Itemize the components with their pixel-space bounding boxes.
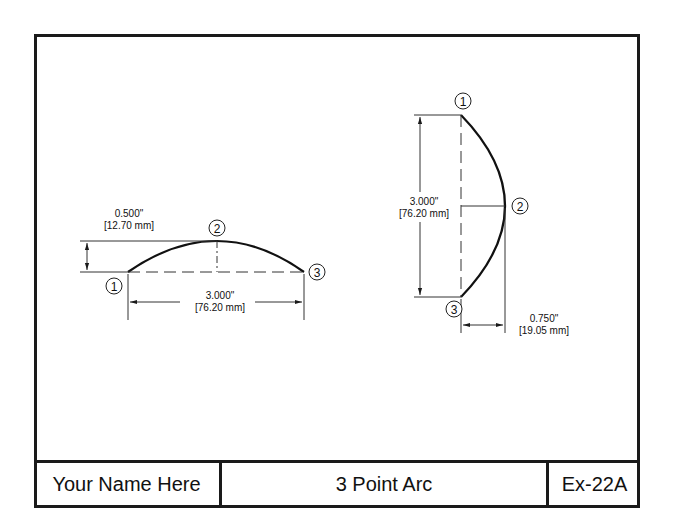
drawing-canvas: 1 2 3 1 2 3 xyxy=(0,0,673,532)
right-chord-inch: 3.000" xyxy=(394,196,454,208)
right-depth-dimension-text: 0.750" [19.05 mm] xyxy=(514,313,574,337)
right-depth-mm: [19.05 mm] xyxy=(514,325,574,337)
title-block-title: 3 Point Arc xyxy=(222,463,549,505)
right-point-2-label: 2 xyxy=(517,200,524,214)
title-block: Your Name Here 3 Point Arc Ex-22A xyxy=(34,460,640,505)
title-block-number: Ex-22A xyxy=(549,463,640,505)
left-point-2-label: 2 xyxy=(214,222,221,236)
left-arc-curve xyxy=(128,241,304,272)
left-point-1-label: 1 xyxy=(111,280,118,294)
left-height-mm: [12.70 mm] xyxy=(104,220,154,232)
left-height-inch: 0.500" xyxy=(104,208,154,220)
right-chord-mm: [76.20 mm] xyxy=(394,208,454,220)
left-chord-mm: [76.20 mm] xyxy=(190,302,250,314)
right-chord-dimension-text: 3.000" [76.20 mm] xyxy=(394,196,454,220)
right-depth-inch: 0.750" xyxy=(514,313,574,325)
left-chord-dimension-text: 3.000" [76.20 mm] xyxy=(190,290,250,314)
right-point-3-label: 3 xyxy=(451,303,458,317)
left-height-dimension-text: 0.500" [12.70 mm] xyxy=(104,208,154,232)
title-block-name: Your Name Here xyxy=(34,463,222,505)
right-point-1-label: 1 xyxy=(460,95,467,109)
left-point-3-label: 3 xyxy=(314,266,321,280)
left-chord-inch: 3.000" xyxy=(190,290,250,302)
